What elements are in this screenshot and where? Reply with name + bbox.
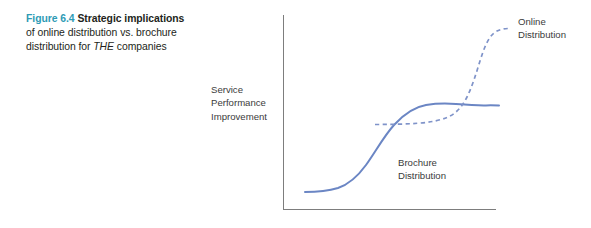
caption-line-2: of online distribution vs. brochure [26,26,222,40]
series-label-online-line-1: Online [518,15,566,28]
series-label-brochure-distribution: Brochure Distribution [398,156,446,182]
figure-number: Figure 6.4 [26,13,75,24]
caption-italic-the: THE [93,41,114,52]
caption-line-1: Figure 6.4 Strategic implications [26,12,222,26]
chart-area: Service Performance Improvement Online D… [200,0,591,228]
figure-container: Figure 6.4 Strategic implications of onl… [0,0,591,228]
caption-line-3: distribution for THE companies [26,40,222,54]
caption-line-3-part-a: distribution for [26,41,93,52]
series-label-online-line-2: Distribution [518,28,566,41]
caption-lead-text-value: Strategic implications [77,13,184,24]
series-label-brochure-line-1: Brochure [398,156,446,169]
series-line-online-distribution [375,28,511,124]
figure-caption: Figure 6.4 Strategic implications of onl… [26,12,222,55]
series-label-brochure-line-2: Distribution [398,169,446,182]
series-label-online-distribution: Online Distribution [518,15,566,41]
caption-lead-text: Strategic implications [75,13,185,24]
caption-line-3-part-b: companies [114,41,167,52]
